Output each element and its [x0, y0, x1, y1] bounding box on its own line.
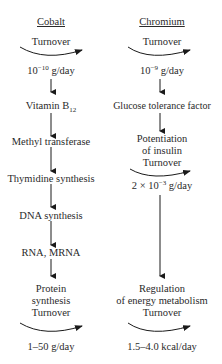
- regulation-energy-metabolism-node: Regulation of energy metabolism Turnover: [104, 283, 220, 319]
- cobalt-turnover-label: Turnover: [0, 36, 102, 48]
- node-line: Turnover: [110, 157, 214, 169]
- rate-unit: g/day: [49, 65, 75, 76]
- rate-base: 10: [140, 65, 151, 76]
- node-line: Turnover: [104, 307, 220, 319]
- protein-synthesis-node: Protein synthesis Turnover: [0, 283, 102, 319]
- chromium-intake-rate: 10−9 g/day: [110, 65, 214, 77]
- thymidine-synthesis-node: Thymidine synthesis: [0, 173, 102, 185]
- chromium-output-rate: 1.5–4.0 kcal/day: [110, 341, 214, 353]
- node-line: Potentiation: [110, 133, 214, 145]
- rate-exponent: −10: [38, 64, 49, 72]
- rate-base: 10: [27, 65, 38, 76]
- turnover-arc-icon: [20, 47, 82, 55]
- dna-synthesis-node: DNA synthesis: [0, 210, 102, 222]
- node-line: Regulation: [104, 283, 220, 295]
- glucose-tolerance-factor-node: Glucose tolerance factor: [106, 100, 218, 112]
- node-line: of energy metabolism: [104, 295, 220, 307]
- turnover-arc-icon: [128, 47, 190, 55]
- cobalt-header: Cobalt: [0, 16, 102, 28]
- turnover-arc-icon: [20, 323, 82, 331]
- rate-unit: g/day: [158, 65, 184, 76]
- turnover-arc-icon: [128, 323, 190, 331]
- rate-exponent: −9: [151, 64, 158, 72]
- vitamin-subscript: 12: [69, 106, 76, 114]
- turnover-arc-icon: [130, 169, 190, 176]
- chromium-mid-rate: 2 × 10−3 g/day: [110, 180, 214, 192]
- cobalt-output-rate: 1–50 g/day: [0, 341, 102, 353]
- node-line: Protein: [0, 283, 102, 295]
- vitamin-label: Vitamin B: [26, 100, 69, 111]
- rate-unit: g/day: [166, 180, 192, 191]
- cobalt-intake-rate: 10−10 g/day: [0, 65, 102, 77]
- chromium-header: Chromium: [110, 16, 214, 28]
- potentiation-of-insulin-node: Potentiation of insulin Turnover: [110, 133, 214, 169]
- node-line: Turnover: [0, 307, 102, 319]
- node-line: of insulin: [110, 145, 214, 157]
- node-line: synthesis: [0, 295, 102, 307]
- rate-base: 2 × 10: [132, 180, 159, 191]
- vitamin-b12-node: Vitamin B12: [0, 100, 102, 112]
- rna-mrna-node: RNA, MRNA: [0, 247, 102, 259]
- methyl-transferase-node: Methyl transferase: [0, 136, 102, 148]
- chromium-turnover-label: Turnover: [110, 36, 214, 48]
